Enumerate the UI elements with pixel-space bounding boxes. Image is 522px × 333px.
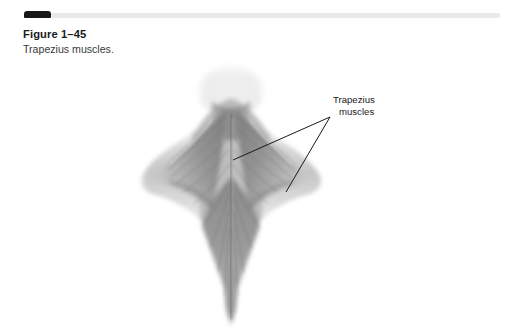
annotation-label-line1: Trapezius [333, 94, 375, 105]
figure-page: Figure 1–45 Trapezius muscles. [0, 0, 522, 333]
figure-caption-text: Trapezius muscles. [23, 42, 283, 56]
header-rule [51, 13, 500, 18]
annotation-label: Trapezius muscles [333, 94, 403, 119]
figure-caption: Figure 1–45 Trapezius muscles. [23, 27, 283, 56]
chapter-marker-tab [24, 11, 51, 18]
figure-number: Figure 1–45 [23, 27, 283, 41]
annotation-label-line2: muscles [333, 106, 403, 118]
